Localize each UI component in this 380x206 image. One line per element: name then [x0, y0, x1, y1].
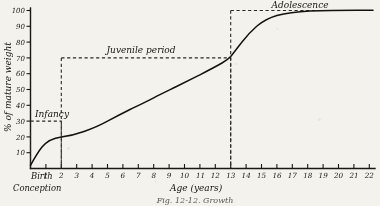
x-tick-label-14: 14: [242, 171, 252, 180]
x-tick-label-6: 6: [121, 171, 126, 180]
y-tick-label-50: 50: [16, 86, 25, 94]
x-tick-label-5: 5: [105, 171, 110, 180]
figure-caption: Fig. 12-12. Growth: [156, 196, 234, 205]
conception-label: Conception: [13, 183, 61, 193]
y-tick-label-90: 90: [16, 23, 25, 31]
y-tick-label-60: 60: [16, 70, 25, 78]
x-tick-label-11: 11: [196, 171, 205, 180]
x-tick-label-18: 18: [303, 171, 313, 180]
x-tick-label-4: 4: [89, 171, 95, 180]
growth-curve-line: [31, 10, 374, 165]
chart-axes: [31, 8, 376, 169]
x-tick-label-15: 15: [257, 171, 267, 180]
x-tick-label-20: 20: [333, 171, 344, 180]
x-tick-label-12: 12: [211, 171, 221, 180]
x-tick-label-22: 22: [364, 171, 375, 180]
x-tick-label-7: 7: [136, 171, 141, 180]
annotation-adolescence-bracket: [231, 11, 375, 169]
x-axis-title: Age (years): [169, 183, 223, 193]
x-tick-label-8: 8: [151, 171, 156, 180]
x-tick-label-10: 10: [180, 171, 190, 180]
x-tick-label-16: 16: [272, 171, 282, 180]
x-tick-label-21: 21: [348, 171, 358, 180]
x-tick-label-13: 13: [226, 171, 236, 180]
growth-chart-plot: 100 90 80 70 60 50 40 30 20 10 % of matu…: [0, 0, 380, 206]
annotation-label-infancy: Infancy: [34, 109, 70, 119]
y-tick-label-100: 100: [12, 7, 26, 15]
x-tick-label-19: 19: [319, 171, 329, 180]
y-tick-label-40: 40: [15, 102, 25, 110]
x-axis-tick-labels: 1 2 3 4 5 6 7 8 9 10 11 12 13 14 15 16 1…: [44, 171, 375, 180]
y-axis-title: % of mature weight: [3, 42, 13, 132]
y-tick-label-80: 80: [16, 39, 25, 47]
annotation-label-juvenile: Juvenile period: [104, 45, 175, 55]
y-tick-label-30: 30: [16, 118, 25, 126]
growth-curve-figure: 100 90 80 70 60 50 40 30 20 10 % of matu…: [0, 0, 380, 206]
x-tick-label-9: 9: [167, 171, 172, 180]
y-tick-label-20: 20: [15, 134, 25, 142]
y-tick-label-70: 70: [16, 55, 25, 63]
annotation-label-adolescence: Adolescence: [270, 0, 328, 10]
y-tick-label-10: 10: [16, 149, 25, 157]
birth-label: Birth: [30, 171, 53, 181]
annotation-juvenile-bracket: [61, 58, 230, 169]
annotation-infancy-bracket: [31, 121, 62, 168]
x-tick-label-2: 2: [58, 171, 64, 180]
x-tick-label-17: 17: [288, 171, 298, 180]
y-axis-tick-labels: 100 90 80 70 60 50 40 30 20 10: [12, 7, 26, 157]
x-tick-label-3: 3: [74, 171, 79, 180]
